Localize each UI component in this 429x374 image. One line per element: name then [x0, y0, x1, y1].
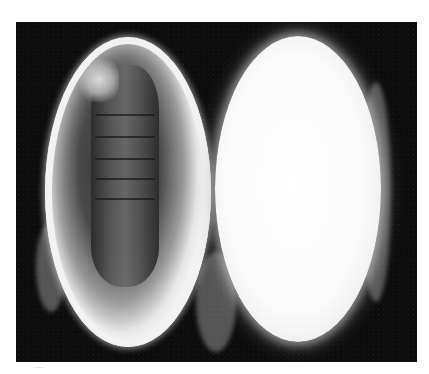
opened-cocoon [45, 37, 211, 347]
cocoon-photograph [16, 22, 417, 362]
caption-mark: ··· [34, 364, 44, 372]
cocoon-rim [45, 37, 211, 347]
intact-cocoon [215, 36, 381, 342]
